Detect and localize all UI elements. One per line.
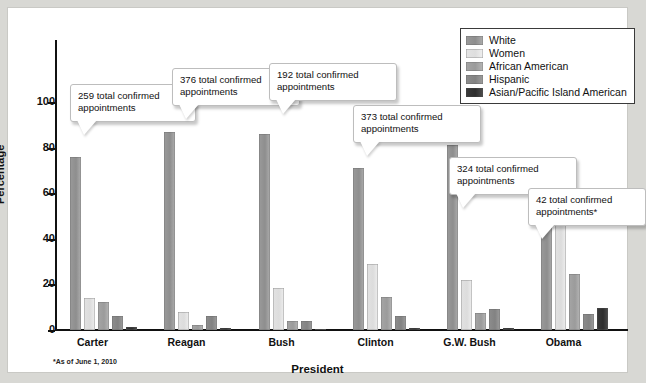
y-tick-mark xyxy=(48,284,55,286)
bar xyxy=(503,328,514,330)
y-tick-mark xyxy=(48,239,55,241)
bar-group xyxy=(164,102,234,330)
bar xyxy=(315,329,326,331)
callout-tail-icon xyxy=(276,99,296,114)
chart-legend: WhiteWomenAfrican AmericanHispanicAsian/… xyxy=(460,28,635,104)
callout-text: 373 total confirmed appointments xyxy=(361,111,443,134)
x-category-label: Reagan xyxy=(150,336,223,348)
legend-swatch-icon xyxy=(466,88,483,97)
callout-text: 324 total confirmed appointments xyxy=(457,163,539,186)
bar xyxy=(409,328,420,330)
bar xyxy=(555,216,566,330)
legend-label: White xyxy=(489,34,516,46)
callout-tail-icon xyxy=(456,193,476,208)
legend-item: Women xyxy=(466,47,629,59)
bar xyxy=(583,314,594,330)
callout-text: 376 total confirmed appointments xyxy=(180,74,262,97)
callout-tail-icon xyxy=(179,104,199,119)
bar xyxy=(259,134,270,330)
y-tick-label: 20 xyxy=(21,277,55,289)
y-tick-label: 100 xyxy=(21,95,55,107)
bar xyxy=(192,325,203,330)
legend-item: African American xyxy=(466,60,629,72)
y-axis-line xyxy=(55,40,57,330)
x-category-label: Obama xyxy=(527,336,600,348)
bar xyxy=(381,297,392,330)
legend-label: Asian/Pacific Island American xyxy=(489,86,627,98)
bar xyxy=(569,274,580,330)
y-tick-mark xyxy=(48,148,55,150)
legend-swatch-icon xyxy=(466,62,483,71)
y-tick-mark xyxy=(48,330,55,332)
callout-tail-icon xyxy=(360,141,380,156)
y-tick-label: 0 xyxy=(21,323,55,335)
bar-group xyxy=(70,102,140,330)
callout-annotation: 373 total confirmed appointments xyxy=(353,105,481,143)
legend-swatch-icon xyxy=(466,75,483,84)
x-category-label: Carter xyxy=(56,336,129,348)
chart-footnote: *As of June 1, 2010 xyxy=(53,358,117,365)
bar xyxy=(164,132,175,330)
bar xyxy=(220,328,231,330)
legend-label: Women xyxy=(489,47,525,59)
bar xyxy=(126,327,137,330)
legend-item: Asian/Pacific Island American xyxy=(466,86,629,98)
bar xyxy=(489,309,500,330)
y-tick-mark xyxy=(48,102,55,104)
bar xyxy=(475,313,486,330)
bar-group xyxy=(259,102,329,330)
y-axis-title: Percentage xyxy=(0,145,6,204)
y-tick-mark xyxy=(48,193,55,195)
bar xyxy=(98,302,109,331)
x-category-label: G.W. Bush xyxy=(433,336,506,348)
bar xyxy=(273,288,284,330)
legend-swatch-icon xyxy=(466,49,483,58)
y-tick-label: 60 xyxy=(21,186,55,198)
bar xyxy=(395,316,406,330)
callout-text: 42 total confirmed appointments* xyxy=(536,194,612,217)
bar xyxy=(597,308,608,330)
legend-swatch-icon xyxy=(466,36,483,45)
chart-canvas: 100806040200 Percentage President *As of… xyxy=(8,8,627,372)
bar xyxy=(206,316,217,330)
y-tick-label: 40 xyxy=(21,232,55,244)
legend-label: Hispanic xyxy=(489,73,529,85)
bar xyxy=(112,316,123,330)
callout-annotation: 192 total confirmed appointments xyxy=(269,63,397,101)
legend-item: White xyxy=(466,34,629,46)
y-tick-label: 80 xyxy=(21,141,55,153)
bar xyxy=(301,321,312,330)
callout-tail-icon xyxy=(535,224,555,239)
callout-annotation: 42 total confirmed appointments* xyxy=(528,188,646,226)
legend-label: African American xyxy=(489,60,568,72)
legend-item: Hispanic xyxy=(466,73,629,85)
callout-tail-icon xyxy=(77,120,97,135)
bar xyxy=(70,157,81,330)
x-category-label: Clinton xyxy=(339,336,412,348)
bar xyxy=(461,280,472,330)
bar xyxy=(287,321,298,330)
callout-text: 192 total confirmed appointments xyxy=(277,69,359,92)
bar xyxy=(367,264,378,330)
callout-text: 259 total confirmed appointments xyxy=(78,90,160,113)
bar xyxy=(84,298,95,330)
bar xyxy=(353,168,364,330)
x-category-label: Bush xyxy=(245,336,318,348)
bar xyxy=(178,312,189,330)
